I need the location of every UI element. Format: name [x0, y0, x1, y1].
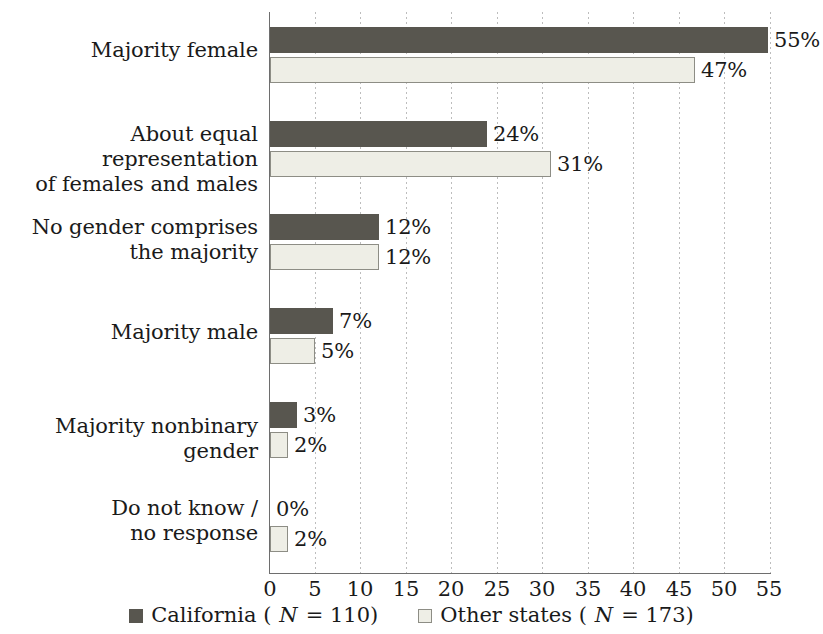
bar-row-california: 3%	[270, 402, 823, 428]
bar-group-do-not-know-no-response: 0% 2%	[270, 496, 823, 552]
bar-value-california-majority-nonbinary-gender: 3%	[303, 405, 336, 426]
xtick-10: 10	[347, 577, 374, 601]
bar-value-other-states-do-not-know-no-response: 2%	[294, 529, 327, 550]
legend-swatch-california-icon	[129, 609, 143, 623]
legend-label-other-states-suffix: = 173)	[621, 603, 694, 627]
bar-row-california: 12%	[270, 214, 823, 240]
category-label-about-equal-representation: About equal representation of females an…	[0, 122, 258, 197]
bar-value-other-states-no-gender-comprises-the-majority: 12%	[385, 247, 431, 268]
bar-california-majority-male	[270, 308, 333, 334]
xtick-15: 15	[393, 577, 420, 601]
legend-swatch-other-states-icon	[418, 609, 432, 623]
legend-item-california[interactable]: California (N = 110)	[129, 603, 378, 627]
bar-group-majority-female: 55% 47%	[270, 27, 823, 83]
bar-row-california: 0%	[270, 496, 823, 522]
legend-label-california-suffix: = 110)	[306, 603, 379, 627]
bar-row-california: 55%	[270, 27, 823, 53]
bar-value-california-about-equal-representation: 24%	[493, 124, 539, 145]
category-label-do-not-know-no-response: Do not know / no response	[111, 496, 258, 546]
bar-other-states-about-equal-representation	[270, 151, 551, 177]
legend-label-california-n: N	[279, 603, 297, 627]
category-label-majority-nonbinary-gender: Majority nonbinary gender	[0, 414, 258, 464]
chart-legend: California (N = 110) Other states (N = 1…	[0, 603, 823, 627]
bar-other-states-majority-female	[270, 57, 695, 83]
xtick-45: 45	[666, 577, 693, 601]
gridline-35	[588, 12, 589, 574]
bar-other-states-majority-nonbinary-gender	[270, 432, 288, 458]
bar-row-other-states: 12%	[270, 244, 823, 270]
gridline-45	[679, 12, 680, 574]
bar-california-about-equal-representation	[270, 121, 487, 147]
bar-group-no-gender-comprises-the-majority: 12% 12%	[270, 214, 823, 270]
x-axis-line	[269, 573, 771, 574]
legend-label-california-prefix: California (	[151, 603, 271, 627]
category-label-majority-female: Majority female	[91, 38, 258, 63]
bar-group-majority-male: 7% 5%	[270, 308, 823, 364]
plot-area	[270, 12, 770, 574]
xtick-0: 0	[263, 577, 276, 601]
bar-group-about-equal-representation: 24% 31%	[270, 121, 823, 177]
category-label-no-gender-comprises-the-majority: No gender comprises the majority	[32, 215, 258, 265]
gridline-10	[360, 12, 361, 574]
bar-value-other-states-majority-nonbinary-gender: 2%	[294, 435, 327, 456]
bar-value-other-states-majority-male: 5%	[321, 341, 354, 362]
xtick-40: 40	[620, 577, 647, 601]
bar-row-other-states: 2%	[270, 526, 823, 552]
legend-label-other-states-prefix: Other states (	[440, 603, 587, 627]
bar-other-states-no-gender-comprises-the-majority	[270, 244, 379, 270]
category-label-majority-male: Majority male	[111, 320, 258, 345]
bar-row-other-states: 2%	[270, 432, 823, 458]
bar-row-california: 24%	[270, 121, 823, 147]
bar-row-other-states: 31%	[270, 151, 823, 177]
gridline-55	[770, 12, 771, 574]
xtick-50: 50	[711, 577, 738, 601]
xtick-55: 55	[756, 577, 783, 601]
xtick-5: 5	[308, 577, 321, 601]
gridline-25	[497, 12, 498, 574]
bar-other-states-do-not-know-no-response	[270, 526, 288, 552]
bar-california-no-gender-comprises-the-majority	[270, 214, 379, 240]
legend-label-other-states-n: N	[595, 603, 613, 627]
bar-value-california-majority-female: 55%	[774, 30, 820, 51]
xtick-30: 30	[529, 577, 556, 601]
xtick-20: 20	[438, 577, 465, 601]
gridline-15	[406, 12, 407, 574]
bar-group-majority-nonbinary-gender: 3% 2%	[270, 402, 823, 458]
y-axis-line	[269, 12, 270, 574]
bar-california-majority-nonbinary-gender	[270, 402, 297, 428]
gridline-5	[315, 12, 316, 574]
gridline-20	[451, 12, 452, 574]
legend-item-other-states[interactable]: Other states (N = 173)	[418, 603, 694, 627]
bar-value-other-states-about-equal-representation: 31%	[557, 154, 603, 175]
bar-chart: Majority female 55% 47% About equal repr…	[0, 0, 823, 634]
bar-value-california-majority-male: 7%	[339, 311, 372, 332]
bar-value-other-states-majority-female: 47%	[701, 60, 747, 81]
bar-row-other-states: 5%	[270, 338, 823, 364]
gridline-50	[724, 12, 725, 574]
bar-california-majority-female	[270, 27, 768, 53]
xtick-25: 25	[484, 577, 511, 601]
gridline-30	[542, 12, 543, 574]
bar-value-california-do-not-know-no-response: 0%	[276, 499, 309, 520]
bar-row-other-states: 47%	[270, 57, 823, 83]
bar-row-california: 7%	[270, 308, 823, 334]
bar-other-states-majority-male	[270, 338, 315, 364]
gridline-40	[633, 12, 634, 574]
bar-value-california-no-gender-comprises-the-majority: 12%	[385, 217, 431, 238]
xtick-35: 35	[575, 577, 602, 601]
